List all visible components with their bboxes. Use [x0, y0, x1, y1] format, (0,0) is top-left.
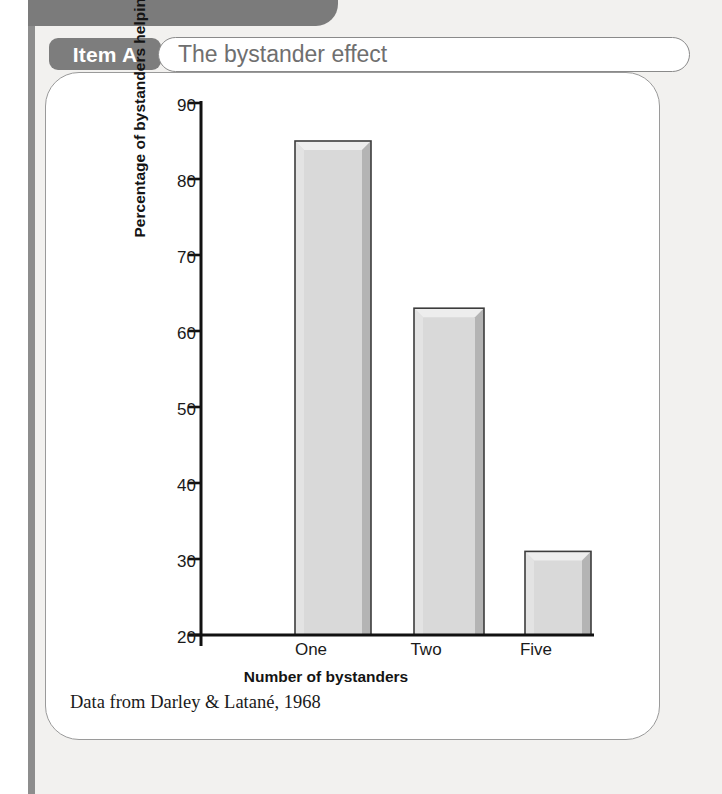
- bar-five: [525, 551, 591, 635]
- bar-two: [414, 308, 484, 635]
- x-tick-label: One: [251, 641, 371, 658]
- x-tick-label: Two: [366, 641, 486, 658]
- bar-one: [295, 141, 371, 635]
- x-axis-title: Number of bystanders: [46, 668, 606, 686]
- page-root: Item A The bystander effect 90 80 70 60 …: [0, 0, 722, 794]
- bar-chart: 90 80 70 60 50 40 30 20 Percentage of by…: [46, 73, 661, 741]
- top-header-band: [28, 0, 338, 26]
- item-title: The bystander effect: [159, 43, 387, 66]
- item-tag-label: Item A: [73, 44, 138, 65]
- y-tick-label: 40: [152, 477, 196, 494]
- item-title-pill: The bystander effect: [158, 37, 690, 72]
- y-tick-label: 60: [152, 325, 196, 342]
- page-gutter-rule: [28, 26, 35, 794]
- y-tick-label: 70: [152, 249, 196, 266]
- y-tick-labels: 90 80 70 60 50 40 30 20: [152, 73, 196, 741]
- y-tick-label: 20: [152, 629, 196, 646]
- y-axis-title: Percentage of bystanders helping: [131, 0, 149, 263]
- bars-group: [295, 141, 591, 635]
- page-margin-left: [0, 26, 28, 794]
- top-band-gap: [0, 0, 28, 26]
- y-tick-label: 30: [152, 553, 196, 570]
- y-tick-label: 90: [152, 97, 196, 114]
- chart-source-caption: Data from Darley & Latané, 1968: [70, 692, 321, 713]
- y-tick-label: 80: [152, 173, 196, 190]
- y-tick-label: 50: [152, 401, 196, 418]
- x-tick-label: Five: [476, 641, 596, 658]
- chart-card: 90 80 70 60 50 40 30 20 Percentage of by…: [45, 72, 660, 740]
